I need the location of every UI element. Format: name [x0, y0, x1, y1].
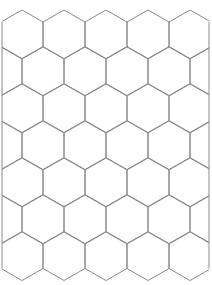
hex-cell [85, 10, 127, 59]
hex-cell [106, 195, 148, 244]
hex-cell [1, 232, 43, 281]
hex-cell [0, 121, 22, 170]
hex-cell [1, 84, 43, 133]
hex-cell [0, 47, 22, 96]
hex-cell [211, 232, 212, 281]
hex-cell [0, 195, 22, 244]
hex-cell [211, 158, 212, 207]
hex-cell [169, 84, 211, 133]
hex-cell [64, 47, 106, 96]
hex-cell [0, 10, 1, 59]
hex-cell [22, 195, 64, 244]
hex-cell [127, 10, 169, 59]
hex-cell [22, 121, 64, 170]
hex-cell [169, 10, 211, 59]
hex-cell [148, 121, 190, 170]
hex-cell [43, 158, 85, 207]
hex-cell [169, 232, 211, 281]
hex-cell [64, 121, 106, 170]
hex-cell [211, 84, 212, 133]
hex-cell [148, 47, 190, 96]
hex-cell [148, 195, 190, 244]
hex-cell [0, 158, 1, 207]
hex-cell [85, 84, 127, 133]
hex-cell [1, 10, 43, 59]
hex-grid [0, 0, 212, 285]
hex-cell [127, 158, 169, 207]
hex-cell [43, 10, 85, 59]
hex-cell [1, 158, 43, 207]
hex-cell [43, 84, 85, 133]
hex-cell [0, 84, 1, 133]
hex-cell [85, 232, 127, 281]
hex-cell [85, 158, 127, 207]
hex-cell [43, 232, 85, 281]
hex-cells [0, 10, 212, 281]
hex-cell [211, 10, 212, 59]
hex-cell [127, 232, 169, 281]
hex-cell [106, 47, 148, 96]
hex-cell [64, 195, 106, 244]
hex-cell [22, 47, 64, 96]
hex-cell [169, 158, 211, 207]
hex-cell [106, 121, 148, 170]
hex-cell [0, 232, 1, 281]
hex-cell [127, 84, 169, 133]
